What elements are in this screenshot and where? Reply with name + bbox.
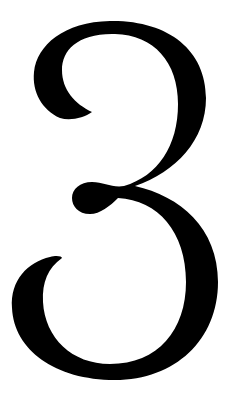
numeral-three-glyph: 3 [0, 0, 234, 407]
numeral-canvas: 3 [0, 0, 234, 407]
